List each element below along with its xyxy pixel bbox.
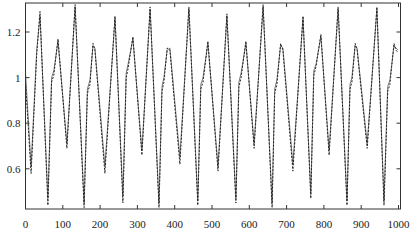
x-tick-label: 500 xyxy=(204,218,221,230)
y-tick-label: 0.6 xyxy=(7,163,21,175)
y-axis: 0.60.811.2 xyxy=(7,26,401,175)
x-tick-label: 400 xyxy=(166,218,183,230)
x-tick-label: 600 xyxy=(241,218,258,230)
y-tick-label: 0.8 xyxy=(7,117,21,129)
x-tick-label: 300 xyxy=(129,218,146,230)
y-tick-label: 1.2 xyxy=(7,26,21,38)
x-tick-label: 800 xyxy=(316,218,333,230)
line-chart: 01002003004005006007008009001000 0.60.81… xyxy=(0,0,412,234)
x-tick-label: 900 xyxy=(353,218,370,230)
x-tick-label: 100 xyxy=(55,218,72,230)
series-layer xyxy=(26,5,399,208)
x-tick-label: 700 xyxy=(278,218,295,230)
x-tick-label: 200 xyxy=(92,218,109,230)
y-tick-label: 1 xyxy=(15,72,21,84)
x-tick-label: 1000 xyxy=(388,218,411,230)
x-tick-label: 0 xyxy=(23,218,29,230)
series-dashed-line xyxy=(26,5,399,208)
x-axis: 01002003004005006007008009001000 xyxy=(23,3,410,230)
